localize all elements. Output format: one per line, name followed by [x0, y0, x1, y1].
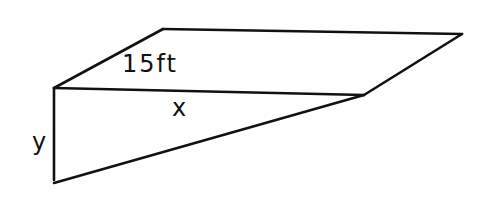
edge-right-slant [364, 34, 462, 95]
edge-x [54, 88, 364, 95]
edge-bottom-slope [54, 95, 364, 183]
label-x: x [172, 94, 186, 122]
wedge-diagram: 15ft x y [0, 0, 493, 197]
label-y: y [32, 128, 46, 156]
label-slant: 15ft [122, 50, 178, 78]
edge-back-top [163, 29, 462, 34]
